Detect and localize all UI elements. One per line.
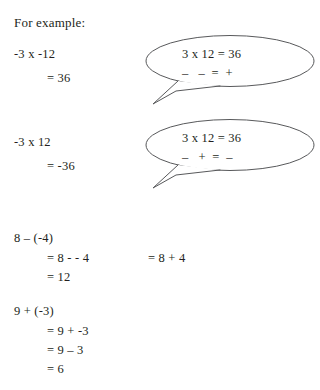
example-2-expression: -3 x 12 xyxy=(14,136,51,149)
bubble-1-sign-rule: – – = + xyxy=(182,67,233,80)
bubble-2-equation: 3 x 12 = 36 xyxy=(182,132,241,145)
example-3-expression: 8 – (-4) xyxy=(14,232,53,245)
example-4-step-2: = 9 – 3 xyxy=(47,344,84,357)
example-1-result: = 36 xyxy=(47,72,70,85)
speech-bubble-2: 3 x 12 = 36 – + = – xyxy=(144,118,319,190)
bubble-2-sign-rule: – + = – xyxy=(182,151,233,164)
example-4-result: = 6 xyxy=(47,363,64,376)
example-3-alternate-step: = 8 + 4 xyxy=(148,252,185,265)
example-4-expression: 9 + (-3) xyxy=(14,305,54,318)
page-title: For example: xyxy=(14,16,85,29)
example-1-expression: -3 x -12 xyxy=(14,48,55,61)
example-3-result: = 12 xyxy=(47,271,70,284)
example-4-step-1: = 9 + -3 xyxy=(47,325,89,338)
bubble-1-equation: 3 x 12 = 36 xyxy=(182,48,241,61)
speech-bubble-1: 3 x 12 = 36 – – = + xyxy=(144,34,319,106)
example-2-result: = -36 xyxy=(47,160,75,173)
worksheet-page: For example: -3 x -12 = 36 -3 x 12 = -36… xyxy=(0,0,320,390)
example-3-step-1: = 8 - - 4 xyxy=(47,252,89,265)
